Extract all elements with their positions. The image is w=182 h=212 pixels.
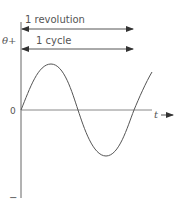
sine-cycle-diagram: 1 revolution 1 cycle θ+ 0 t − bbox=[0, 0, 182, 212]
cycle-label: 1 cycle bbox=[36, 35, 71, 46]
origin-label: 0 bbox=[10, 106, 16, 116]
theta-plus-label: θ+ bbox=[2, 35, 16, 46]
time-axis-label: t bbox=[154, 109, 159, 120]
revolution-label: 1 revolution bbox=[25, 14, 85, 25]
minus-label: − bbox=[9, 192, 17, 203]
